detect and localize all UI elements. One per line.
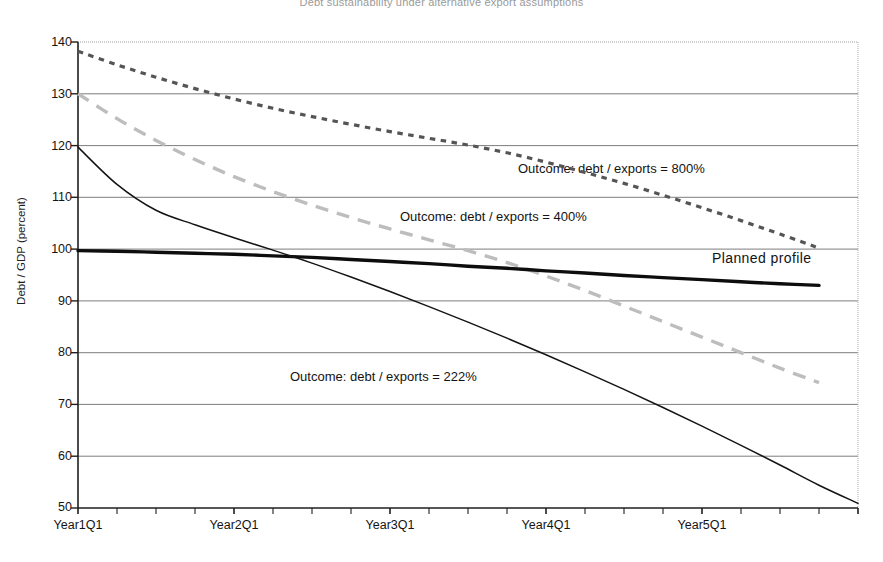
series-line-222 bbox=[78, 147, 858, 503]
series-lines bbox=[78, 51, 858, 503]
series-line-800 bbox=[78, 51, 819, 248]
plot-border bbox=[78, 42, 858, 508]
plot-area bbox=[0, 0, 883, 562]
y-axis-ticks bbox=[71, 42, 78, 508]
series-line-planned bbox=[78, 251, 819, 286]
chart-figure: Debt sustainability under alternative ex… bbox=[0, 0, 883, 562]
x-axis-ticks bbox=[78, 508, 858, 514]
series-line-400 bbox=[78, 94, 819, 383]
